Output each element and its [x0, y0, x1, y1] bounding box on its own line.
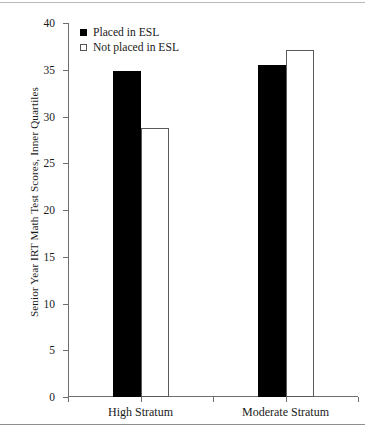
y-axis-tick: 15: [63, 257, 68, 258]
x-axis-category-label: High Stratum: [108, 405, 173, 420]
y-axis-tick: 40: [63, 23, 68, 24]
page-rule-top: [0, 2, 365, 3]
x-axis-tick: [286, 397, 287, 402]
y-axis-tick: 5: [63, 350, 68, 351]
x-axis-tick: [358, 397, 359, 402]
legend-label: Not placed in ESL: [93, 41, 179, 54]
bar-placed-in-esl: [258, 65, 286, 397]
bar-not-placed-in-esl: [141, 128, 169, 397]
legend: Placed in ESL Not placed in ESL: [80, 25, 179, 55]
x-axis-category-label: Moderate Stratum: [242, 405, 329, 420]
y-axis-tick: 20: [63, 210, 68, 211]
legend-swatch-filled-square-icon: [80, 29, 87, 36]
y-axis-tick-label: 30: [44, 111, 56, 123]
y-axis-tick: 25: [63, 163, 68, 164]
legend-swatch-open-square-icon: [80, 44, 87, 51]
bar-not-placed-in-esl: [286, 50, 314, 397]
y-axis-tick-label: 15: [44, 251, 56, 263]
x-axis-tick: [213, 397, 214, 402]
chart-figure: Senior Year IRT Math Test Scores, Inner …: [0, 0, 365, 438]
y-axis-tick-label: 0: [49, 391, 55, 403]
y-axis-line: [68, 23, 69, 398]
y-axis-tick-label: 10: [44, 298, 56, 310]
x-axis-tick: [141, 397, 142, 402]
legend-item-placed-in-esl: Placed in ESL: [80, 25, 179, 40]
page-rule-bottom: [0, 424, 365, 425]
y-axis-tick: 35: [63, 70, 68, 71]
y-axis-tick: 30: [63, 117, 68, 118]
y-axis-tick-label: 20: [44, 204, 56, 216]
x-axis-tick: [68, 397, 69, 402]
bar-placed-in-esl: [113, 71, 141, 397]
legend-label: Placed in ESL: [93, 26, 159, 39]
y-axis-tick: 10: [63, 304, 68, 305]
y-axis-tick-label: 5: [49, 344, 55, 356]
plot-area: 0510152025303540 High StratumModerate St…: [68, 23, 358, 397]
legend-item-not-placed-in-esl: Not placed in ESL: [80, 40, 179, 55]
y-axis-tick-label: 25: [44, 157, 56, 169]
y-axis-tick-label: 40: [44, 17, 56, 29]
y-axis-title: Senior Year IRT Math Test Scores, Inner …: [28, 47, 40, 357]
y-axis-tick-label: 35: [44, 64, 56, 76]
